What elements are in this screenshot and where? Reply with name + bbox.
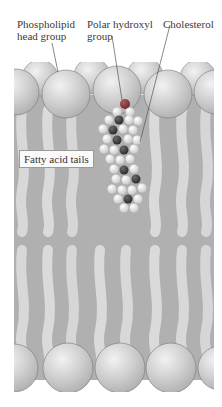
polar-hydroxyl-group-label: Polar hydroxyl group bbox=[87, 18, 153, 42]
membrane-diagram bbox=[0, 0, 222, 407]
membrane-core bbox=[0, 58, 222, 393]
phospholipid-head-group-label: Phospholipid head group bbox=[17, 18, 75, 42]
fatty-acid-tails-label: Fatty acid tails bbox=[19, 150, 94, 168]
label-line: Polar hydroxyl bbox=[87, 18, 153, 30]
hydroxyl-oxygen-atom bbox=[120, 99, 130, 109]
label-line: head group bbox=[17, 30, 75, 42]
cholesterol-label: Cholesterol bbox=[163, 18, 214, 30]
label-line: Phospholipid bbox=[17, 18, 75, 30]
label-line: group bbox=[87, 30, 153, 42]
